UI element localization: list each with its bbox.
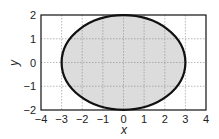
svg-text:−1: −1 bbox=[23, 80, 36, 92]
y-axis-label: y bbox=[7, 59, 21, 67]
svg-text:2: 2 bbox=[162, 113, 168, 125]
svg-text:−1: −1 bbox=[97, 113, 110, 125]
svg-text:1: 1 bbox=[141, 113, 147, 125]
chart: −4 −3 −2 −1 0 1 2 3 4 2 1 0 −1 −2 x y bbox=[0, 0, 219, 139]
y-tick-labels: 2 1 0 −1 −2 bbox=[23, 9, 36, 116]
svg-text:−3: −3 bbox=[55, 113, 68, 125]
svg-text:−2: −2 bbox=[76, 113, 89, 125]
svg-text:−4: −4 bbox=[35, 113, 48, 125]
svg-text:0: 0 bbox=[30, 57, 36, 69]
x-axis-label: x bbox=[120, 123, 128, 137]
svg-text:4: 4 bbox=[203, 113, 209, 125]
svg-text:−2: −2 bbox=[23, 104, 36, 116]
svg-text:2: 2 bbox=[30, 9, 36, 21]
svg-text:1: 1 bbox=[30, 33, 36, 45]
svg-text:3: 3 bbox=[182, 113, 188, 125]
